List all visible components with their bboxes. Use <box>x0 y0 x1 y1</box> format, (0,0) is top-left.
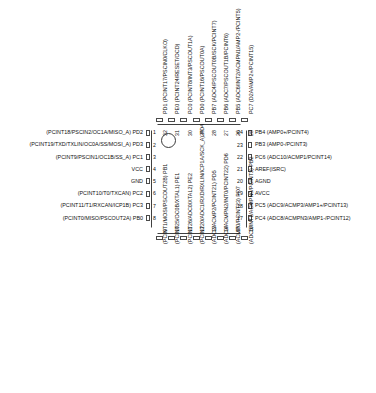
pin-pad-31 <box>168 118 175 122</box>
pin-number-6: 6 <box>153 190 156 196</box>
pin-label-28: PB7 (ADC4/PSCOUT0B/SCK/PCINT7) <box>211 21 218 114</box>
pin-label-6: (PCINT10/T0/TXCAN) PC2 <box>78 190 143 197</box>
pin-number-30: 30 <box>187 130 193 136</box>
pin-label-30: PC0 (PCINT8/INT3/PSCOUT1A) <box>187 36 194 114</box>
pin-pad-7 <box>146 203 150 209</box>
pin-label-22: PC6 (ADC10/ACMP1/PCINT14) <box>255 154 332 161</box>
pin-label-8: (PCINT0/MISO/PSCOUT2A) PB0 <box>63 215 143 222</box>
pin-label-32: PD1 (PCINT17/PSCIN0/CLKO) <box>162 39 169 114</box>
pin-label-19: AVCC <box>255 190 270 197</box>
pin-pad-2 <box>146 142 150 148</box>
pin-label-10: (PCINT25/OC0B/XTAL1) PE1 <box>174 173 181 244</box>
pin-label-11: (PCINT26/ADC0/XTAL2) PE2 <box>187 173 194 244</box>
pin-number-22: 22 <box>237 154 243 160</box>
pin-label-18: PC5 (ADC9/ACMP3/AMP1+/PCINT13) <box>255 202 348 209</box>
pin-label-26: PB5 (ADC6/INT2/ACMPN1/AMP2-/PCINT5) <box>235 9 242 114</box>
pin-label-7: (PCINT11/T1/RXCAN/ICP1B) PC3 <box>60 202 143 209</box>
pin-number-2: 2 <box>153 142 156 148</box>
pin-label-23: PB3 (AMP0-/PCINT3) <box>255 141 307 148</box>
pin-label-9: (PCINT1/MOSI/PSCOUT2B) PB1 <box>162 164 169 244</box>
pin-label-29: PD0 (PCINT16/PSCOUT0A) <box>199 46 206 114</box>
pin-number-7: 7 <box>153 203 156 209</box>
pin-number-25: 25 <box>248 130 254 136</box>
pin-label-21: AREF(ISRC) <box>255 166 286 173</box>
pin-pad-26 <box>229 118 236 122</box>
pin-pad-29 <box>193 118 200 122</box>
pinout-diagram: 1234567824232221201918173231302928272625… <box>0 0 376 393</box>
pin-pad-4 <box>146 166 150 172</box>
pin-label-24: PB4 (AMP0+/PCINT4) <box>255 129 309 136</box>
pin-number-1: 1 <box>153 129 156 135</box>
pin-label-1: (PCINT18/PSCIN2/OC1A/MISO_A) PD2 <box>46 129 143 136</box>
pin-pad-25 <box>241 118 248 122</box>
pin-label-31: PE0 (PCINT24/RESET/OCD) <box>174 44 181 114</box>
pin-number-31: 31 <box>174 130 180 136</box>
pin-label-13: (ADC2/ACMP2/PCINT21) PD5 <box>211 170 218 244</box>
pin-label-15: (ACMP0/PCINT23) PD7 <box>235 186 242 244</box>
pin-pad-6 <box>146 191 150 197</box>
pin-label-16: (ADC5/INT1/ACMPN0/PCINT3) PB2 <box>248 157 255 244</box>
pin-label-4: VCC <box>132 166 143 173</box>
pin-number-26: 26 <box>235 130 241 136</box>
pin-pad-28 <box>205 118 212 122</box>
pin-label-17: PC4 (ADC8/ACMPN3/AMP1-/PCINT12) <box>255 215 351 222</box>
pin-pad-5 <box>146 178 150 184</box>
pin-label-27: PB6 (ADC7/PSCOUT1B/PCINT6) <box>223 33 230 114</box>
pin-number-3: 3 <box>153 154 156 160</box>
pin-pad-30 <box>180 118 187 122</box>
pin-number-27: 27 <box>223 130 229 136</box>
pin-number-23: 23 <box>237 142 243 148</box>
pin-label-5: GND <box>131 178 143 185</box>
pin-pad-32 <box>156 118 163 122</box>
pin-pad-23 <box>248 142 252 148</box>
pin-number-28: 28 <box>211 130 217 136</box>
pin-pad-1 <box>146 130 150 136</box>
pin-number-5: 5 <box>153 178 156 184</box>
pin-label-3: (PCINT9/PSCIN1/OC1B/SS_A) PC1 <box>56 154 143 161</box>
pin-label-14: (ADC3/ACMPN2/INT0/PCINT22) PD6 <box>223 153 230 244</box>
pin-number-32: 32 <box>162 130 168 136</box>
pin-pad-27 <box>217 118 224 122</box>
pin-number-21: 21 <box>237 166 243 172</box>
pin-label-20: AGND <box>255 178 271 185</box>
pin-number-20: 20 <box>237 178 243 184</box>
pin-number-4: 4 <box>153 166 156 172</box>
pin-pad-3 <box>146 154 150 160</box>
pin-number-8: 8 <box>153 215 156 221</box>
pin-label-2: (PCINT19/TXD/TXLIN/OC0A/SS/MOSI_A) PD3 <box>29 141 143 148</box>
pin-pad-8 <box>146 215 150 221</box>
pin-label-25: PC7 (D2A/AMP2+/PCINT15) <box>248 45 255 114</box>
pin-label-12: (PCINT20/ADC1/RXD/RXLIN/ICP1A/SCK_A) PD4 <box>199 124 206 244</box>
